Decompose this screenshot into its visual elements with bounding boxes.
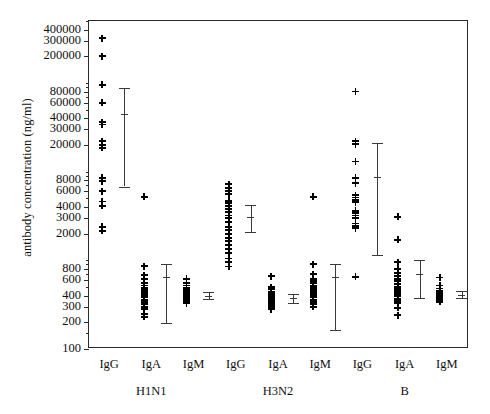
- data-point: [352, 192, 359, 199]
- y-axis-tick-mark: [84, 145, 89, 146]
- data-point: [225, 212, 232, 219]
- error-bar: [166, 264, 167, 323]
- data-point: [225, 205, 232, 212]
- y-axis-tick-label: 300000: [44, 34, 82, 47]
- mean-marker: [121, 114, 128, 115]
- data-point: [352, 180, 359, 187]
- data-point: [310, 294, 317, 301]
- data-point: [310, 301, 317, 308]
- error-bar-cap-upper: [203, 292, 214, 293]
- y-axis-tick-mark: [84, 118, 89, 119]
- data-point: [141, 292, 148, 299]
- data-point: [141, 313, 148, 320]
- data-point: [225, 197, 232, 204]
- data-point: [141, 263, 148, 270]
- data-point: [394, 259, 401, 266]
- data-point: [436, 285, 443, 292]
- data-point: [352, 194, 359, 201]
- data-point: [141, 284, 148, 291]
- data-point: [394, 278, 401, 285]
- data-point: [394, 293, 401, 300]
- data-point: [99, 178, 106, 185]
- data-point: [141, 294, 148, 301]
- data-point: [225, 234, 232, 241]
- data-point: [310, 288, 317, 295]
- data-point: [352, 199, 359, 206]
- y-axis-tick-mark: [84, 103, 89, 104]
- data-point: [141, 303, 148, 310]
- y-axis-tick-mark: [84, 234, 89, 235]
- data-point: [268, 288, 275, 295]
- data-point: [183, 293, 190, 300]
- mean-marker: [290, 298, 297, 299]
- x-axis-category-label-iga-1: IgA: [142, 357, 161, 372]
- data-point: [99, 138, 106, 145]
- error-bar-cap-lower: [119, 187, 130, 188]
- data-point: [436, 291, 443, 298]
- y-axis-tick-label: 20000: [50, 138, 81, 151]
- mean-marker: [247, 217, 254, 218]
- y-axis-tick-label: 100: [62, 342, 81, 355]
- data-point: [394, 295, 401, 302]
- data-point: [141, 275, 148, 282]
- data-point: [183, 288, 190, 295]
- data-point: [310, 278, 317, 285]
- data-point: [225, 215, 232, 222]
- data-point: [141, 272, 148, 279]
- data-point: [394, 213, 401, 220]
- error-bar: [377, 143, 378, 255]
- x-axis-group-label-h1n1: H1N1: [136, 384, 167, 399]
- data-point: [268, 301, 275, 308]
- data-point: [268, 295, 275, 302]
- data-point: [99, 53, 106, 60]
- data-point: [436, 292, 443, 299]
- data-point: [141, 290, 148, 297]
- y-axis-minor-tick: [86, 333, 89, 334]
- x-axis-category-label-igg-6: IgG: [353, 357, 372, 372]
- data-point: [141, 286, 148, 293]
- x-axis-category-label-igm-8: IgM: [436, 357, 458, 372]
- data-point: [352, 210, 359, 217]
- data-point: [394, 236, 401, 243]
- mean-marker: [374, 177, 381, 178]
- y-axis-tick-label: 3000: [56, 211, 81, 224]
- data-point: [352, 225, 359, 232]
- x-axis-category-label-igm-5: IgM: [309, 357, 331, 372]
- data-point: [394, 286, 401, 293]
- mean-marker: [416, 274, 423, 275]
- mean-marker: [163, 277, 170, 278]
- data-point: [99, 144, 106, 151]
- data-point: [436, 274, 443, 281]
- y-axis-minor-tick: [86, 287, 89, 288]
- plot-area: [88, 20, 468, 348]
- data-point: [99, 81, 106, 88]
- data-point: [436, 288, 443, 295]
- data-point: [183, 300, 190, 307]
- data-point: [225, 219, 232, 226]
- data-point: [394, 275, 401, 282]
- data-point: [99, 227, 106, 234]
- data-point: [225, 250, 232, 257]
- data-point: [225, 190, 232, 197]
- y-axis-minor-tick: [86, 97, 89, 98]
- data-point: [99, 35, 106, 42]
- data-point: [436, 298, 443, 305]
- data-point: [268, 273, 275, 280]
- data-point: [352, 141, 359, 148]
- data-point: [141, 279, 148, 286]
- data-point: [99, 188, 106, 195]
- data-point: [268, 292, 275, 299]
- data-point: [183, 275, 190, 282]
- data-point: [310, 280, 317, 287]
- error-bar: [124, 88, 125, 187]
- x-axis-category-label-iga-7: IgA: [395, 357, 414, 372]
- data-point: [352, 196, 359, 203]
- y-axis-tick-mark: [84, 322, 89, 323]
- data-point: [436, 293, 443, 300]
- data-point: [268, 298, 275, 305]
- data-point: [225, 185, 232, 192]
- data-point: [310, 303, 317, 310]
- chart-figure: antibody concentration (ng/ml) 400000300…: [0, 0, 490, 414]
- data-point: [183, 298, 190, 305]
- mean-marker: [458, 295, 465, 296]
